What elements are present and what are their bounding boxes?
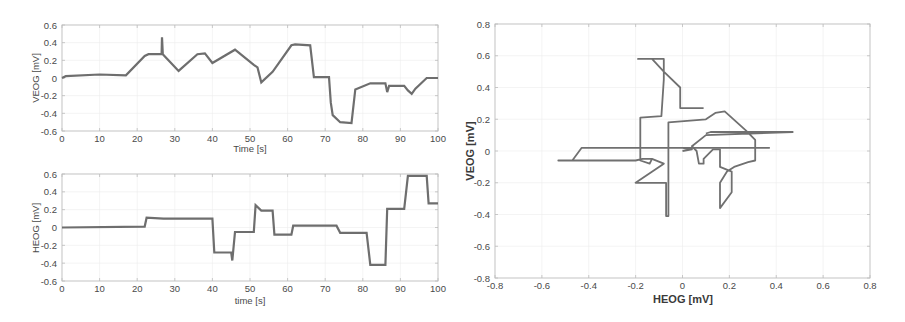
heog-y-axis-label: HEOG [mV] [30,203,41,253]
veog-time-plot: 0.6 0.4 0.2 0 -0.2 -0.4 -0.6 0 10 20 30 … [30,20,446,155]
y-tick-label: 0.6 [477,50,490,61]
x-tick-label: -0.6 [534,280,550,291]
x-tick-label: 0 [59,283,64,294]
y-tick-label: 0.4 [44,186,57,197]
phase-y-tick-labels: 0.8 0.6 0.4 0.2 0 -0.2 -0.4 -0.6 -0.8 [474,19,490,284]
phase-x-tick-labels: -0.8 -0.6 -0.4 -0.2 0 0.2 0.4 0.6 0.8 [487,280,877,291]
x-tick-label: 20 [132,283,143,294]
y-tick-label: -0.4 [41,108,57,119]
y-tick-label: 0.8 [477,19,490,30]
x-tick-label: 100 [430,133,446,144]
heog-x-tick-labels: 0 10 20 30 40 50 60 70 80 90 100 [59,283,446,294]
y-tick-label: -0.6 [41,126,57,137]
y-tick-label: 0.2 [477,114,490,125]
x-tick-label: 50 [245,283,256,294]
phase-x-axis-label: HEOG [mV] [653,293,713,305]
x-tick-label: 0.6 [816,280,829,291]
y-tick-label: 0.4 [477,82,490,93]
x-tick-label: 80 [358,283,369,294]
phase-trace-1 [558,59,769,164]
x-tick-label: 30 [170,283,181,294]
y-tick-label: -0.4 [41,258,57,269]
y-tick-label: -0.6 [474,241,490,252]
y-tick-label: -0.4 [474,209,490,220]
x-tick-label: 70 [320,283,331,294]
x-tick-label: 90 [395,283,406,294]
veog-x-axis-label: Time [s] [233,143,266,154]
y-tick-label: -0.2 [41,90,57,101]
x-tick-label: 80 [358,133,369,144]
y-tick-label: -0.2 [474,177,490,188]
y-tick-label: 0.6 [44,169,57,180]
x-tick-label: -0.4 [581,280,597,291]
heog-x-axis-label: time [s] [235,295,266,306]
heog-time-plot: 0.6 0.4 0.2 0 -0.2 -0.4 -0.6 0 10 20 30 … [30,169,446,307]
heog-y-tick-labels: 0.6 0.4 0.2 0 -0.2 -0.4 -0.6 [41,169,57,287]
x-tick-label: 30 [170,133,181,144]
y-tick-label: 0 [52,222,57,233]
veog-y-tick-labels: 0.6 0.4 0.2 0 -0.2 -0.4 -0.6 [41,20,57,137]
phase-trace-2 [636,111,793,216]
x-tick-label: 0 [680,280,685,291]
x-tick-label: 90 [395,133,406,144]
x-tick-label: 60 [282,283,293,294]
y-tick-label: 0 [52,73,57,84]
phase-y-axis-label: VEOG [mV] [464,121,476,181]
figure: 0.6 0.4 0.2 0 -0.2 -0.4 -0.6 0 10 20 30 … [0,0,905,322]
x-tick-label: 0.8 [863,280,876,291]
y-tick-label: 0 [485,146,490,157]
x-tick-label: 10 [94,133,105,144]
y-tick-label: -0.2 [41,240,57,251]
x-tick-label: 10 [94,283,105,294]
x-tick-label: 70 [320,133,331,144]
y-tick-label: 0.4 [44,37,57,48]
x-tick-label: -0.2 [627,280,643,291]
x-tick-label: 40 [207,133,218,144]
x-tick-label: 100 [430,283,446,294]
veog-gridlines [62,25,438,131]
y-tick-label: 0.2 [44,55,57,66]
y-tick-label: 0.6 [44,20,57,31]
x-tick-label: 0 [59,133,64,144]
x-tick-label: 0.2 [723,280,736,291]
heog-veog-scatter-plot: 0.8 0.6 0.4 0.2 0 -0.2 -0.4 -0.6 -0.8 -0… [464,19,877,306]
veog-y-axis-label: VEOG [mV] [30,53,41,103]
y-tick-label: -0.6 [41,276,57,287]
x-tick-label: -0.8 [487,280,503,291]
x-tick-label: 20 [132,133,143,144]
y-tick-label: 0.2 [44,204,57,215]
x-tick-label: 40 [207,283,218,294]
x-tick-label: 0.4 [770,280,783,291]
x-tick-label: 60 [282,133,293,144]
